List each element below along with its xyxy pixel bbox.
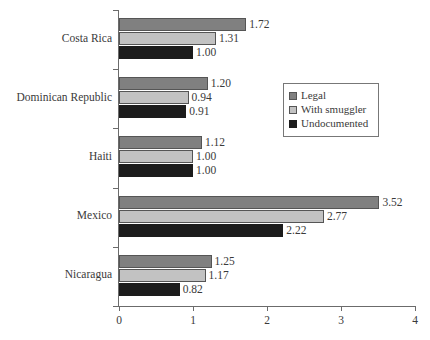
x-axis-tick-label: 3 [326, 313, 356, 327]
chart-legend: Legal With smuggler Undocumented [283, 83, 379, 137]
bar [119, 77, 208, 90]
bar-value-label: 1.00 [193, 150, 216, 163]
x-axis-tick [119, 306, 120, 311]
legend-item-legal: Legal [289, 89, 373, 102]
legend-item-with-smuggler: With smuggler [289, 103, 373, 116]
bar-value-label: 1.31 [216, 32, 239, 45]
legend-item-label: With smuggler [301, 103, 366, 116]
category-label: Nicaragua [0, 267, 112, 281]
bar-value-label: 1.72 [246, 18, 269, 31]
x-axis-tick [415, 306, 416, 311]
bar-value-label: 0.94 [189, 91, 212, 104]
bar-chart: Costa RicaDominican RepublicHaitiMexicoN… [0, 0, 430, 340]
bar [119, 164, 193, 177]
x-axis-tick-label: 1 [178, 313, 208, 327]
bar-value-label: 1.17 [206, 269, 229, 282]
category-label: Costa Rica [0, 31, 112, 45]
bar-value-label: 0.82 [180, 283, 203, 296]
legend-swatch-icon [289, 92, 297, 100]
bar-value-label: 1.00 [193, 46, 216, 59]
category-label: Dominican Republic [0, 90, 112, 104]
bar [119, 255, 212, 268]
legend-item-label: Legal [301, 89, 326, 102]
x-axis-tick [193, 306, 194, 311]
legend-swatch-icon [289, 106, 297, 114]
bar-value-label: 3.52 [379, 196, 402, 209]
category-label: Haiti [0, 149, 112, 163]
bar-value-label: 1.00 [193, 164, 216, 177]
bar [119, 150, 193, 163]
bar [119, 32, 216, 45]
y-axis-tick [113, 188, 119, 189]
x-axis-tick-label: 4 [400, 313, 430, 327]
bar [119, 105, 186, 118]
bar [119, 196, 379, 209]
legend-item-undocumented: Undocumented [289, 117, 373, 130]
y-axis-tick [113, 128, 119, 129]
bar-value-label: 1.25 [212, 255, 235, 268]
bar-value-label: 0.91 [186, 105, 209, 118]
bar [119, 210, 324, 223]
x-axis-tick [267, 306, 268, 311]
bar [119, 269, 206, 282]
category-label: Mexico [0, 208, 112, 222]
x-axis-tick-label: 2 [252, 313, 282, 327]
bar [119, 224, 283, 237]
legend-swatch-icon [289, 120, 297, 128]
bar [119, 136, 202, 149]
y-axis-tick [113, 247, 119, 248]
bar-value-label: 1.20 [208, 77, 231, 90]
bar-value-label: 2.77 [324, 210, 347, 223]
x-axis-tick [341, 306, 342, 311]
bar-value-label: 2.22 [283, 224, 306, 237]
bar [119, 18, 246, 31]
y-axis-tick [113, 69, 119, 70]
legend-item-label: Undocumented [301, 117, 368, 130]
y-axis-tick [113, 10, 119, 11]
bar [119, 46, 193, 59]
bar [119, 283, 180, 296]
bar-value-label: 1.12 [202, 136, 225, 149]
bar [119, 91, 189, 104]
x-axis-tick-label: 0 [104, 313, 134, 327]
